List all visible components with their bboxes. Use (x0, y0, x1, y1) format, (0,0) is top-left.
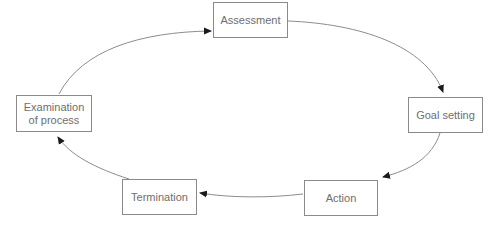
edge-examination-to-assessment (59, 31, 211, 94)
edge-assessment-to-goal-setting (288, 21, 443, 92)
edge-goal-setting-to-action (383, 133, 440, 177)
node-label: Examination of process (24, 101, 85, 127)
node-label: Action (326, 192, 357, 205)
node-goal-setting: Goal setting (408, 97, 483, 133)
node-label: Goal setting (416, 109, 475, 122)
edge-termination-to-examination (58, 137, 129, 179)
node-action: Action (304, 180, 378, 216)
node-termination: Termination (122, 179, 197, 215)
node-label: Assessment (221, 14, 281, 27)
node-label: Termination (131, 191, 188, 204)
node-examination: Examination of process (16, 95, 92, 132)
edge-action-to-termination (200, 193, 303, 197)
node-assessment: Assessment (213, 2, 288, 38)
